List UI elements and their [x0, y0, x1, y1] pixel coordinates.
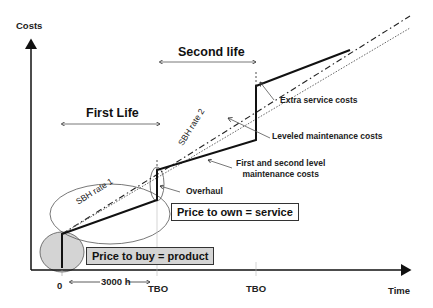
leveled-maintenance-label: Leveled maintenance costs [272, 131, 383, 141]
phase-first-life: First Life [86, 106, 139, 120]
own-ellipse [50, 184, 170, 244]
y-axis-label: Costs [16, 20, 42, 31]
first-second-level-label: First and second level maintenance costs [236, 158, 325, 180]
overhaul-label: Overhaul [186, 186, 223, 196]
extra-service-costs-label: Extra service costs [280, 95, 358, 105]
x-tick-tbo-1: TBO [148, 283, 168, 294]
x-tick-tbo-2: TBO [246, 283, 266, 294]
interval-label: 3000 h [101, 276, 131, 287]
x-axis-label: Time [388, 285, 410, 296]
price-to-buy-box: Price to buy = product [86, 247, 214, 265]
phase-second-life: Second life [178, 45, 245, 59]
x-tick-0: 0 [57, 280, 62, 291]
price-to-own-box: Price to own = service [171, 203, 299, 221]
